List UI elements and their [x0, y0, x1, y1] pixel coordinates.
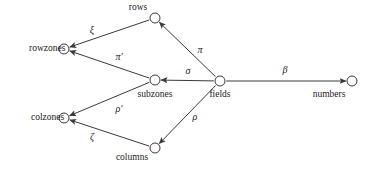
node-columns [150, 143, 160, 153]
graph-canvas [0, 0, 374, 174]
edge-pi-prime [70, 51, 149, 78]
graph-diagram: ξπ′πσβρρ′ζrowsrowzonessubzonesfieldscolz… [0, 0, 374, 174]
nodes-layer [59, 13, 357, 153]
edge-rho-prime [70, 82, 150, 115]
edges-layer [70, 20, 346, 146]
node-fields [215, 76, 225, 86]
edge-sigma [161, 80, 214, 81]
edge-zeta [70, 120, 149, 146]
node-subzones [150, 75, 160, 85]
edge-xi [70, 20, 149, 47]
node-rows [150, 13, 160, 23]
node-numbers [347, 76, 357, 86]
node-rowzones [59, 44, 69, 54]
edge-rho [159, 85, 215, 143]
edge-pi [159, 22, 215, 76]
node-colzones [59, 113, 69, 123]
